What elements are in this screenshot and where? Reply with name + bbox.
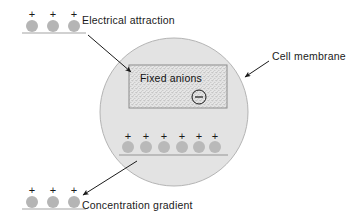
- charge-plus-symbol: +: [50, 185, 56, 196]
- ion-dot: [209, 141, 221, 153]
- label-fixed-anions: Fixed anions: [140, 72, 202, 84]
- label-electrical-attraction: Electrical attraction: [82, 14, 175, 26]
- ion-dot: [68, 196, 80, 208]
- charge-plus-symbol: +: [29, 185, 35, 196]
- charge-plus-symbol: +: [179, 131, 185, 142]
- charge-plus-symbol: +: [212, 131, 218, 142]
- ion-dot: [26, 196, 38, 208]
- label-concentration-gradient: Concentration gradient: [82, 199, 193, 211]
- ion-dot: [158, 141, 170, 153]
- ion-dot: [47, 196, 59, 208]
- ion-dot: [122, 141, 134, 153]
- label-cell-membrane: Cell membrane: [272, 50, 346, 62]
- charge-plus-symbol: +: [143, 131, 149, 142]
- charge-plus-symbol: +: [29, 9, 35, 20]
- cell-membrane-diagram: + + + + + + + + + + + + Electrical attra…: [0, 0, 346, 221]
- electrical-attraction-arrow: [88, 35, 131, 72]
- charge-plus-symbol: +: [71, 185, 77, 196]
- charge-plus-symbol: +: [161, 131, 167, 142]
- ion-dot: [140, 141, 152, 153]
- charge-plus-symbol: +: [50, 9, 56, 20]
- concentration-gradient-arrow: [83, 161, 137, 195]
- cell-membrane-arrow: [245, 61, 269, 77]
- ion-dot: [26, 20, 38, 32]
- ion-dot: [68, 20, 80, 32]
- charge-plus-symbol: +: [125, 131, 131, 142]
- charge-plus-symbol: +: [196, 131, 202, 142]
- ion-dot: [193, 141, 205, 153]
- charge-plus-symbol: +: [71, 9, 77, 20]
- ion-dot: [176, 141, 188, 153]
- ion-dot: [47, 20, 59, 32]
- cell-body: [100, 38, 248, 186]
